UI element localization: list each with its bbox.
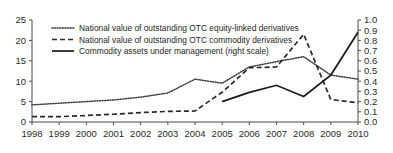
y2-axis-tick-label: 0.7 (364, 45, 377, 56)
y2-axis-tick-label: 0.5 (364, 65, 377, 76)
x-axis-tick-label: 2008 (293, 128, 314, 139)
y2-axis-tick-label: 1.0 (364, 14, 377, 25)
x-axis-tick-label: 2000 (76, 128, 97, 139)
y-axis-tick-label: 25 (15, 14, 26, 25)
y-axis-tick-label: 0 (21, 116, 26, 127)
y2-axis-tick-label: 0.2 (364, 96, 377, 107)
y2-axis-tick-label: 0.1 (364, 106, 377, 117)
y-axis-tick-label: 20 (15, 35, 26, 46)
y2-axis-tick-label: 0.8 (364, 35, 377, 46)
y-axis-tick-label: 10 (15, 76, 26, 87)
x-axis-tick-label: 2002 (130, 128, 151, 139)
x-axis-tick-label: 1999 (49, 128, 70, 139)
y-axis-tick-label: 15 (15, 55, 26, 66)
legend-label-0: National value of outstanding OTC equity… (79, 23, 299, 33)
y2-axis-tick-label: 0.6 (364, 55, 377, 66)
x-axis-tick-label: 2009 (320, 128, 341, 139)
chart-container: 05101520250.00.10.20.30.40.50.60.70.80.9… (0, 0, 393, 153)
x-axis-tick-label: 1998 (21, 128, 42, 139)
y2-axis-tick-label: 0.4 (364, 76, 377, 87)
y-axis-tick-label: 5 (21, 96, 26, 107)
y2-axis-tick-label: 0.0 (364, 116, 377, 127)
x-axis-tick-label: 2001 (103, 128, 124, 139)
x-axis-tick-label: 2004 (184, 128, 205, 139)
line-chart: 05101520250.00.10.20.30.40.50.60.70.80.9… (0, 0, 393, 153)
x-axis-tick-label: 2006 (239, 128, 260, 139)
series-line-0 (32, 57, 358, 105)
legend-label-1: National value of outstanding OTC commod… (79, 35, 292, 45)
y2-axis-tick-label: 0.3 (364, 86, 377, 97)
x-axis-tick-label: 2005 (212, 128, 233, 139)
y2-axis-tick-label: 0.9 (364, 25, 377, 36)
x-axis-tick-label: 2003 (157, 128, 178, 139)
legend-label-2: Commodity assets under management (right… (79, 46, 269, 56)
x-axis-tick-label: 2007 (266, 128, 287, 139)
x-axis-tick-label: 2010 (347, 128, 368, 139)
